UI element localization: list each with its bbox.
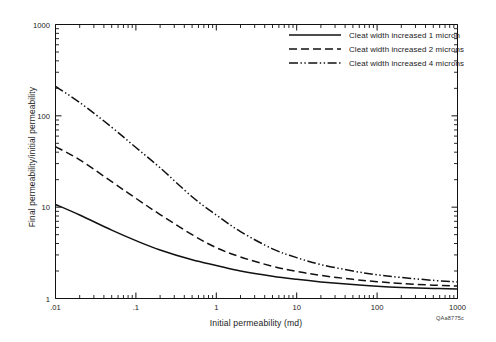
legend: Cleat width increased 1 micron Cleat wid… xyxy=(288,28,464,70)
x-tick-label: 10 xyxy=(292,303,300,312)
x-tick-label: 1000 xyxy=(449,303,466,312)
legend-label-1-micron: Cleat width increased 1 micron xyxy=(349,31,460,40)
figure-chart-permeability: Final permeability/initial permeability … xyxy=(0,0,496,342)
y-tick-label: 1 xyxy=(18,294,50,303)
legend-swatch-dashed xyxy=(288,43,342,55)
legend-label-4-microns: Cleat width increased 4 microns xyxy=(349,59,464,68)
x-axis-label: Initial permeability (md) xyxy=(55,318,457,328)
series-line-2 xyxy=(56,147,458,286)
y-tick-label: 100 xyxy=(18,111,50,120)
x-tick-label: 1 xyxy=(214,303,218,312)
y-axis-label: Final permeability/initial permeability xyxy=(27,47,37,267)
series-line-1 xyxy=(56,204,458,289)
y-tick-label: 10 xyxy=(18,203,50,212)
series-line-3 xyxy=(56,86,458,281)
y-tick-label: 1000 xyxy=(18,20,50,29)
legend-item-1-micron: Cleat width increased 1 micron xyxy=(288,28,464,42)
figure-id-label: QAa8775c xyxy=(436,315,464,321)
legend-item-2-microns: Cleat width increased 2 microns xyxy=(288,42,464,56)
legend-swatch-solid xyxy=(288,29,342,41)
legend-item-4-microns: Cleat width increased 4 microns xyxy=(288,56,464,70)
legend-swatch-dash-dot-dot xyxy=(288,57,342,69)
legend-label-2-microns: Cleat width increased 2 microns xyxy=(349,45,464,54)
x-tick-label: .1 xyxy=(133,303,139,312)
x-tick-label: .01 xyxy=(50,303,61,312)
x-tick-label: 100 xyxy=(371,303,384,312)
